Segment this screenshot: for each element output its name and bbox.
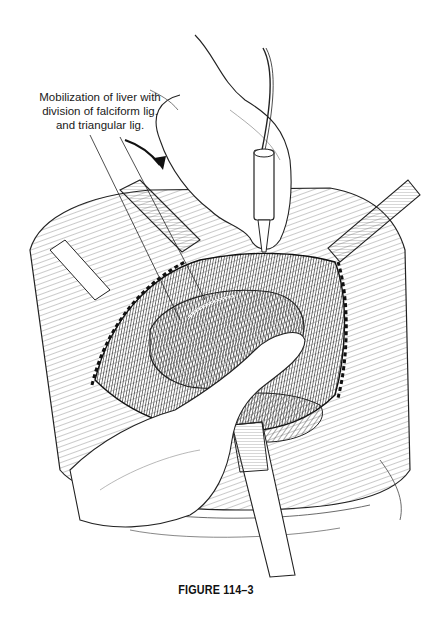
annotation-label: Mobilization of liver with division of f… — [6, 90, 194, 132]
annotation-line-3: and triangular lig. — [6, 118, 194, 132]
surgical-illustration: Mobilization of liver with division of f… — [0, 0, 432, 617]
annotation-line-2: division of falciform lig. — [6, 104, 194, 118]
annotation-line-1: Mobilization of liver with — [6, 90, 194, 104]
curved-arrow-icon — [125, 140, 166, 170]
figure-caption: FIGURE 114–3 — [22, 583, 411, 597]
